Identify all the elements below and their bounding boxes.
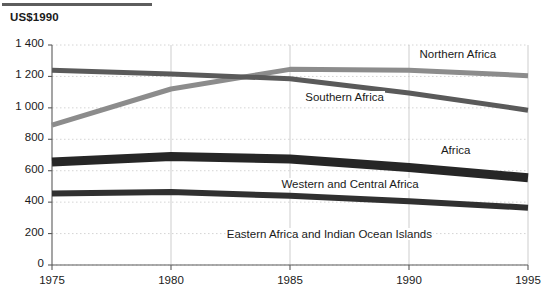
y-tick-label: 1 200 bbox=[0, 68, 44, 80]
x-tick-label: 1975 bbox=[29, 274, 75, 286]
y-tick-label: 1 000 bbox=[0, 100, 44, 112]
x-tick-label: 1990 bbox=[386, 274, 432, 286]
y-tick-label: 400 bbox=[0, 194, 44, 206]
series-label: Africa bbox=[440, 144, 471, 156]
y-tick-label: 0 bbox=[0, 257, 44, 269]
series-label: Western and Central Africa bbox=[280, 178, 419, 190]
series-label: Southern Africa bbox=[304, 91, 385, 103]
y-tick-label: 600 bbox=[0, 163, 44, 175]
x-tick-label: 1995 bbox=[505, 274, 551, 286]
x-tick-label: 1980 bbox=[148, 274, 194, 286]
series-label: Eastern Africa and Indian Ocean Islands bbox=[226, 228, 433, 240]
y-tick-label: 800 bbox=[0, 131, 44, 143]
y-tick-label: 1 400 bbox=[0, 37, 44, 49]
series-label: Northern Africa bbox=[419, 48, 498, 60]
chart-figure: US$1990 02004006008001 0001 2001 400 197… bbox=[0, 0, 552, 303]
x-tick-label: 1985 bbox=[267, 274, 313, 286]
y-tick-label: 200 bbox=[0, 226, 44, 238]
